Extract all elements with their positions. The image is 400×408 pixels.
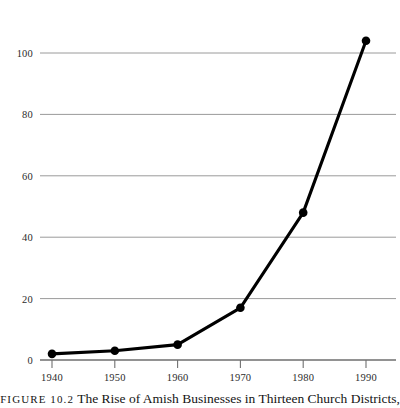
data-point-marker (48, 350, 57, 359)
x-axis-tick-label: 1950 (104, 372, 126, 383)
line-chart (0, 0, 400, 408)
data-point-marker (236, 304, 245, 313)
y-axis-tick-label: 40 (0, 232, 33, 243)
data-point-marker (111, 346, 120, 355)
x-axis-tick-label: 1990 (355, 372, 377, 383)
data-point-marker (173, 340, 182, 349)
data-point-marker (362, 36, 371, 45)
x-axis-tick-label: 1980 (292, 372, 314, 383)
figure-container: 020406080100 194019501960197019801990 FI… (0, 0, 400, 408)
figure-caption: FIGURE 10.2 The Rise of Amish Businesses… (0, 391, 400, 407)
x-axis-tick-label: 1940 (41, 372, 63, 383)
data-point-markers-group (48, 36, 371, 358)
x-axis-ticks-group (52, 360, 366, 368)
y-axis-tick-label: 20 (0, 293, 33, 304)
x-axis-tick-label: 1960 (167, 372, 189, 383)
figure-caption-text: The Rise of Amish Businesses in Thirteen… (77, 391, 400, 406)
y-axis-tick-label: 60 (0, 170, 33, 181)
y-axis-tick-label: 80 (0, 109, 33, 120)
data-line (52, 41, 366, 354)
x-axis-tick-label: 1970 (229, 372, 251, 383)
y-axis-tick-label: 0 (0, 355, 33, 366)
y-axis-tick-label: 100 (0, 48, 33, 59)
figure-number: FIGURE 10.2 (0, 393, 74, 405)
gridlines-group (40, 53, 396, 360)
data-point-marker (299, 208, 308, 217)
